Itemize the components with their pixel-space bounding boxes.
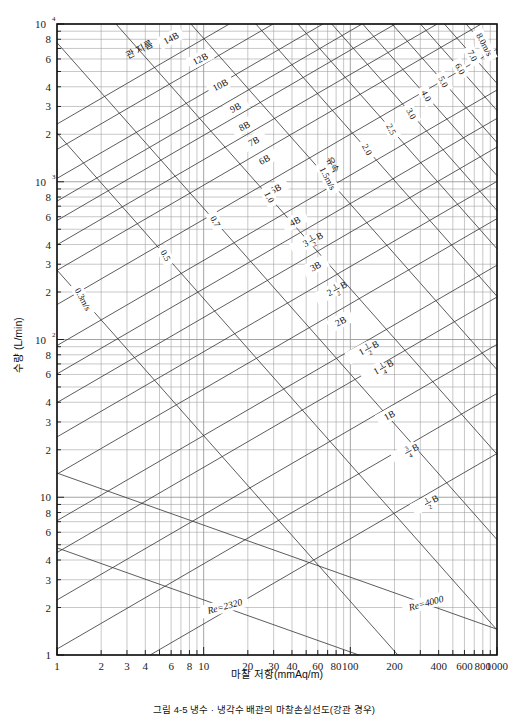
y-tick-label: 10 — [35, 18, 47, 30]
x-tick-label: 3 — [124, 660, 130, 672]
friction-loss-nomograph: 1234681020304060801002004006008001000 12… — [0, 0, 528, 718]
y-tick-label: 8 — [46, 191, 52, 203]
y-tick-label: 2 — [46, 602, 52, 614]
y-tick-label: 2 — [46, 286, 52, 298]
x-tick-label: 2 — [98, 660, 104, 672]
x-tick-label: 200 — [386, 660, 403, 672]
y-tick-label: 10 — [35, 176, 47, 188]
nomograph-svg: 1234681020304060801002004006008001000 12… — [0, 0, 528, 718]
y-tick-label: 8 — [46, 349, 52, 361]
y-tick-label: 3 — [46, 258, 52, 270]
x-tick-label: 4 — [143, 660, 149, 672]
y-tick-label: 4 — [46, 554, 52, 566]
y-tick-label: 2 — [46, 444, 52, 456]
figure-caption: 그림 4-5 냉수 · 냉각수 배관의 마찰손실선도(강관 경우) — [153, 704, 375, 715]
y-tick-label: 6 — [46, 526, 52, 538]
x-tick-label: 10 — [198, 660, 210, 672]
y-tick-label: 3 — [46, 100, 52, 112]
y-tick-exponent: 3 — [52, 173, 56, 181]
y-tick-label: 1 — [46, 649, 52, 661]
x-tick-label: 1 — [54, 660, 60, 672]
x-tick-label: 600 — [456, 660, 473, 672]
y-tick-label: 8 — [46, 507, 52, 519]
y-tick-label: 6 — [46, 211, 52, 223]
y-tick-label: 4 — [46, 239, 52, 251]
x-tick-label: 80 — [331, 660, 343, 672]
x-axis-title: 마찰 저항(mmAq/m) — [231, 668, 323, 680]
y-tick-label: 6 — [46, 53, 52, 65]
x-tick-label: 1000 — [486, 660, 509, 672]
y-tick-label: 2 — [46, 128, 52, 140]
y-tick-exponent: 2 — [52, 331, 56, 339]
y-tick-label: 6 — [46, 368, 52, 380]
x-tick-label: 6 — [168, 660, 174, 672]
y-tick-exponent: 4 — [52, 15, 56, 23]
y-tick-label: 8 — [46, 33, 52, 45]
y-tick-label: 3 — [46, 416, 52, 428]
y-tick-label: 4 — [46, 81, 52, 93]
y-tick-label: 10 — [40, 491, 52, 503]
x-tick-label: 400 — [430, 660, 447, 672]
x-tick-label: 100 — [342, 660, 359, 672]
x-tick-label: 8 — [187, 660, 193, 672]
canvas-background — [0, 0, 528, 718]
y-tick-label: 3 — [46, 574, 52, 586]
y-tick-label: 10 — [35, 334, 47, 346]
y-axis-title: 수량 (L/min) — [12, 317, 24, 373]
y-tick-label: 4 — [46, 396, 52, 408]
